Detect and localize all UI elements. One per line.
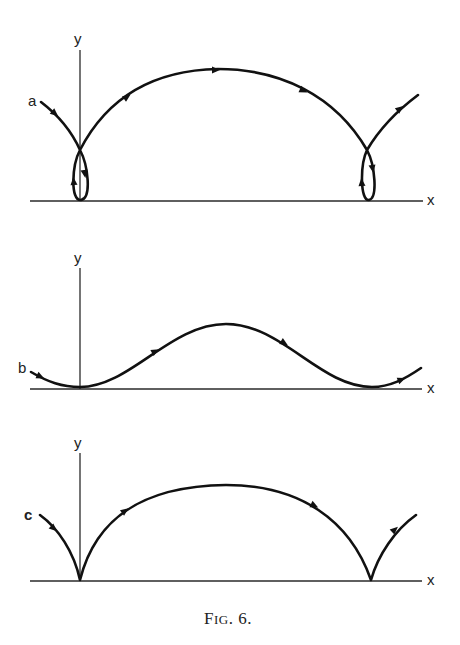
panel-label-b: b <box>18 359 26 376</box>
panel-c: y x c <box>24 434 435 588</box>
panel-b: y x b <box>18 249 435 396</box>
panel-a: y x a <box>28 30 435 208</box>
figure-caption: FIG. 6. <box>204 609 252 628</box>
figure-6: y x a y x b y x c <box>0 0 460 645</box>
arrow-icon <box>70 177 78 186</box>
curve-c <box>40 485 416 580</box>
x-axis-label: x <box>427 191 435 208</box>
panel-label-c: c <box>24 506 32 523</box>
x-axis-label: x <box>427 379 435 396</box>
y-axis-label: y <box>74 434 82 451</box>
arrow-icon <box>212 67 220 74</box>
x-axis-label: x <box>427 571 435 588</box>
curve-b <box>31 324 421 387</box>
arrow-icon <box>397 375 407 384</box>
y-axis-label: y <box>74 249 82 266</box>
panel-label-a: a <box>28 92 37 109</box>
y-axis-label: y <box>74 30 82 47</box>
arrow-icon <box>358 178 366 187</box>
